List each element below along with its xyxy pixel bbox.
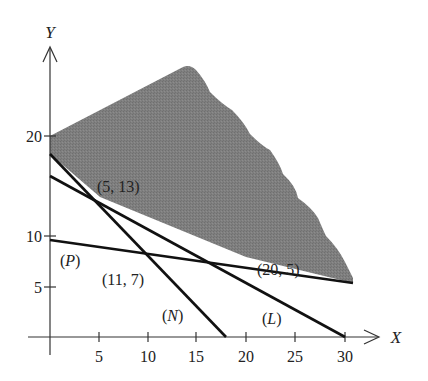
x-tick-label: 30 (337, 348, 353, 365)
vertex-label-5-13: (5, 13) (97, 178, 140, 196)
x-axis-label: X (390, 328, 402, 347)
y-tick-label: 20 (26, 128, 42, 145)
x-tick-label: 25 (287, 348, 303, 365)
y-axis-label: Y (45, 23, 56, 42)
x-tick-label: 10 (140, 348, 156, 365)
line-p-label: (P) (60, 252, 80, 270)
feasible-region-chart: 5 10 15 20 25 30 20 10 5 Y X (5, 13) (11… (0, 0, 428, 381)
y-tick-label: 10 (26, 228, 42, 245)
shaded-feasible-region (50, 66, 353, 283)
line-n-label: (N) (162, 307, 183, 325)
x-tick-label: 20 (238, 348, 254, 365)
vertex-label-20-5: (20, 5) (257, 261, 300, 279)
x-tick-label: 15 (188, 348, 204, 365)
x-tick-label: 5 (95, 348, 103, 365)
line-l-label: (L) (262, 310, 282, 328)
y-tick-label: 5 (34, 279, 42, 296)
vertex-label-11-7: (11, 7) (102, 271, 144, 289)
